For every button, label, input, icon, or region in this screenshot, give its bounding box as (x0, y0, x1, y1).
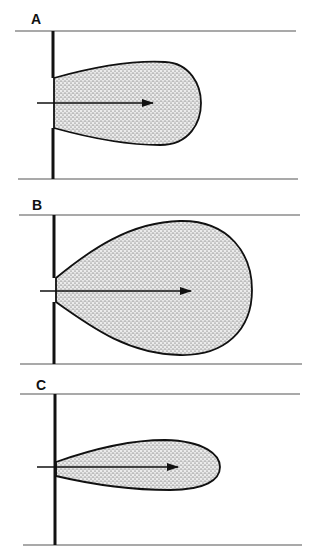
panel-b (19, 215, 302, 364)
panel-c (20, 394, 302, 545)
panels-group (15, 31, 302, 545)
jet-lobe-shape (56, 440, 220, 490)
panel-label-b: B (32, 198, 42, 212)
diagram-canvas (0, 0, 318, 558)
jet-lobe-shape (56, 221, 252, 355)
panel-label-a: A (31, 12, 41, 26)
panel-a (15, 31, 298, 179)
panel-label-c: C (36, 378, 46, 392)
